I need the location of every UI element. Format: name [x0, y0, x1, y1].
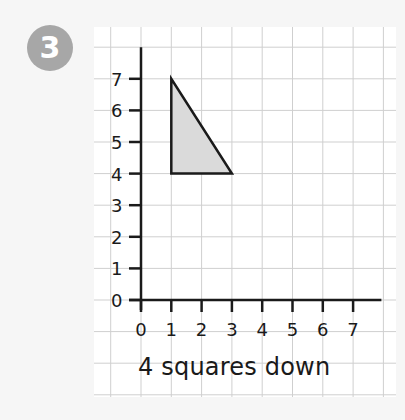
y-tick-label: 2	[111, 227, 122, 248]
instruction-caption: 4 squares down	[138, 353, 330, 381]
y-tick-label: 3	[111, 195, 122, 216]
x-tick-label: 4	[256, 319, 267, 340]
x-tick-label: 1	[166, 319, 177, 340]
y-tick-label: 5	[111, 132, 122, 153]
y-tick-label: 1	[111, 258, 122, 279]
x-tick-label: 7	[347, 319, 358, 340]
x-tick-label: 0	[135, 319, 146, 340]
x-tick-label: 3	[226, 319, 237, 340]
x-tick-label: 2	[196, 319, 207, 340]
y-tick-label: 4	[111, 164, 122, 185]
y-tick-label: 7	[111, 69, 122, 90]
y-tick-label: 0	[111, 290, 122, 311]
grid-panel	[94, 27, 396, 397]
x-tick-label: 6	[317, 319, 328, 340]
x-tick-label: 5	[287, 319, 298, 340]
y-tick-label: 6	[111, 100, 122, 121]
